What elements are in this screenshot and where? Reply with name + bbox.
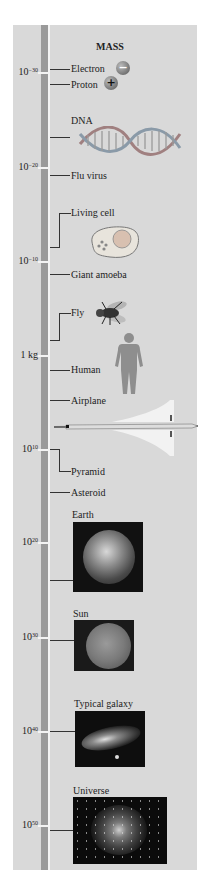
- leader-line: [50, 84, 70, 85]
- label-universe: Universe: [73, 785, 109, 796]
- electron-icon: −: [116, 61, 130, 75]
- scale-label-e-20: 10−20: [14, 162, 38, 172]
- airplane-icon: [52, 400, 200, 458]
- label-asteroid: Asteroid: [71, 487, 105, 498]
- leader-line: [50, 175, 70, 176]
- leader-line: [50, 492, 70, 493]
- leader-line: [50, 69, 70, 70]
- leader-line: [59, 213, 60, 248]
- label-earth: Earth: [72, 509, 94, 520]
- ruler-line: [48, 25, 50, 870]
- scale-label-e10: 1010: [14, 444, 38, 454]
- scale-label-e50: 1050: [14, 820, 38, 830]
- leader-line: [59, 313, 71, 314]
- leader-line: [50, 274, 70, 275]
- leader-line: [50, 137, 70, 138]
- scale-label-e-30: 10−30: [14, 67, 38, 77]
- scale-label-e30: 1030: [14, 632, 38, 642]
- label-dna: DNA: [71, 115, 93, 126]
- leader-line: [50, 580, 73, 581]
- scale-tick: [38, 167, 50, 169]
- scale-label-1kg: 1 kg: [10, 350, 38, 360]
- leader-line: [59, 471, 71, 472]
- scale-label-e20: 1020: [14, 537, 38, 547]
- leader-line: [59, 213, 71, 214]
- living-cell-icon: [86, 224, 142, 260]
- leader-line: [50, 830, 73, 831]
- mass-scale-ruler: [41, 25, 48, 870]
- label-giant-amoeba: Giant amoeba: [71, 269, 127, 280]
- fly-icon: [92, 300, 132, 326]
- label-fly: Fly: [71, 307, 84, 318]
- scale-tick: [38, 542, 50, 544]
- label-flu-virus: Flu virus: [71, 170, 107, 181]
- scale-tick: [38, 72, 50, 74]
- leader-line: [59, 449, 60, 471]
- label-proton: Proton: [71, 79, 98, 90]
- label-electron: Electron: [71, 63, 105, 74]
- label-human: Human: [71, 364, 100, 375]
- scale-label-e-10: 10−10: [14, 256, 38, 266]
- galaxy-photo: [75, 711, 145, 767]
- dna-helix-icon: [78, 126, 182, 156]
- sun-photo: [74, 620, 134, 671]
- scale-tick: [38, 355, 50, 357]
- universe-photo: [73, 797, 167, 864]
- leader-line: [50, 640, 74, 641]
- scale-tick: [38, 825, 50, 827]
- scale-tick: [38, 449, 50, 451]
- label-typical-galaxy: Typical galaxy: [74, 698, 133, 709]
- diagram-title: MASS: [96, 41, 124, 52]
- scale-tick: [38, 261, 50, 263]
- scale-tick: [38, 731, 50, 733]
- human-silhouette-icon: [113, 332, 145, 396]
- scale-label-e40: 1040: [14, 726, 38, 736]
- label-pyramid: Pyramid: [71, 466, 105, 477]
- leader-line: [59, 313, 60, 341]
- label-sun: Sun: [73, 608, 89, 619]
- proton-icon: +: [104, 76, 118, 90]
- scale-tick: [38, 637, 50, 639]
- leader-line: [50, 731, 75, 732]
- label-living-cell: Living cell: [71, 207, 115, 218]
- earth-photo: [73, 522, 143, 592]
- leader-line: [50, 370, 70, 371]
